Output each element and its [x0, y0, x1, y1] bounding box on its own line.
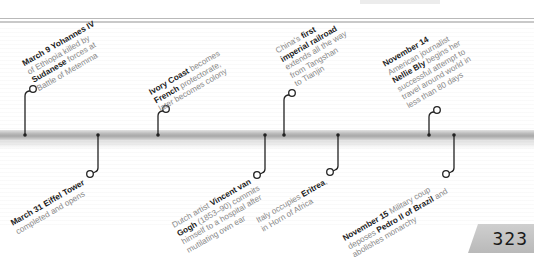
connector-van-gogh — [254, 133, 267, 178]
connector-nellie-bly — [427, 107, 440, 137]
connector-eritrea — [327, 133, 340, 175]
connector-china-railroad — [282, 90, 295, 137]
page-number: 323 — [492, 228, 528, 249]
connector-brazil — [443, 133, 456, 177]
page-number-badge: 323 — [468, 224, 534, 253]
connector-yohannes — [23, 86, 36, 137]
connector-eiffel — [87, 133, 100, 177]
